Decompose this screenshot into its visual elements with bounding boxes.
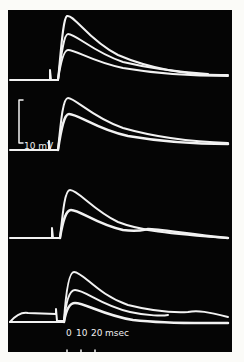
trace-group-3 xyxy=(10,190,228,238)
oscilloscope-figure: 10 mV 0 10 20 msec xyxy=(8,10,232,352)
voltage-scale-label: 10 mV xyxy=(24,141,53,151)
time-scale-bar xyxy=(67,350,95,352)
time-tick-20: 20 xyxy=(91,328,102,338)
voltage-traces xyxy=(8,10,232,352)
time-tick-0: 0 xyxy=(66,328,72,338)
trace-group-1 xyxy=(10,16,228,80)
trace-group-4 xyxy=(10,272,228,323)
time-unit: msec xyxy=(105,328,129,338)
voltage-scale-bar xyxy=(19,100,23,143)
time-tick-10: 10 xyxy=(76,328,87,338)
